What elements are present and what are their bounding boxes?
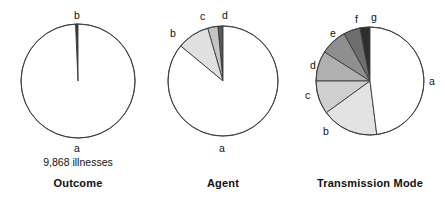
slice-label-transmission-mode-f: f (355, 14, 358, 25)
slice-label-transmission-mode-e: e (330, 28, 336, 39)
pie-slice-transmission-mode-a (370, 27, 424, 135)
slice-label-transmission-mode-g: g (371, 12, 377, 23)
slice-label-transmission-mode-d: d (310, 60, 316, 71)
slice-label-transmission-mode-c: c (305, 90, 310, 101)
pie-panel-transmission-mode: abcdefgTransmission Mode (0, 0, 445, 208)
panel-title-transmission-mode: Transmission Mode (0, 177, 445, 189)
pie-chart-figure: ab9,868 illnessesOutcomeabcdAgentabcdefg… (0, 0, 445, 208)
slice-label-transmission-mode-b: b (323, 126, 329, 137)
slice-label-transmission-mode-a: a (429, 76, 435, 87)
